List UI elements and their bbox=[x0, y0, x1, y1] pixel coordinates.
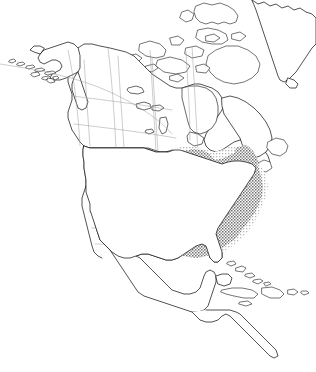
map-canvas bbox=[0, 0, 316, 372]
range-map-figure bbox=[0, 0, 316, 372]
